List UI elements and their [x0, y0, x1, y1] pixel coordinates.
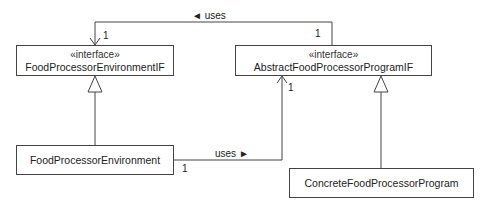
multiplicity-label: 1: [103, 30, 109, 41]
class-food-processor-environment-if: «interface» FoodProcessorEnvironmentIF: [16, 45, 174, 76]
class-abstract-food-processor-program-if: «interface» AbstractFoodProcessorProgram…: [235, 45, 432, 76]
association-uses-top: [95, 22, 332, 45]
class-name: FoodProcessorEnvironment: [30, 154, 160, 167]
hollow-triangle-icon: [88, 76, 102, 92]
class-concrete-food-processor-program: ConcreteFoodProcessorProgram: [289, 168, 474, 198]
stereotype-label: «interface»: [309, 48, 358, 61]
multiplicity-label: 1: [288, 82, 294, 93]
hollow-triangle-icon: [374, 76, 388, 92]
association-label-top: ◄ uses: [192, 10, 226, 21]
association-label-bottom: uses ►: [215, 148, 249, 159]
class-name: FoodProcessorEnvironmentIF: [25, 61, 164, 74]
stereotype-label: «interface»: [70, 48, 119, 61]
multiplicity-label: 1: [182, 163, 188, 174]
multiplicity-label: 1: [315, 28, 321, 39]
class-food-processor-environment: FoodProcessorEnvironment: [16, 145, 174, 175]
class-name: AbstractFoodProcessorProgramIF: [254, 61, 413, 74]
class-name: ConcreteFoodProcessorProgram: [304, 177, 458, 190]
